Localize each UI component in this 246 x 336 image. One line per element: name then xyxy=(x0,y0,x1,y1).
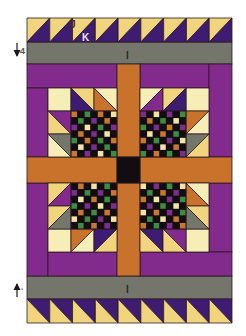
tl-checkerboard-cell xyxy=(85,125,91,131)
tl-checkerboard-cell xyxy=(111,125,117,131)
tl-checkerboard-cell xyxy=(104,144,110,150)
purple-bottom-band-right xyxy=(140,252,232,276)
bl-checkerboard-cell xyxy=(85,216,91,222)
tr-checkerboard-cell xyxy=(167,125,173,131)
tl-checkerboard-cell xyxy=(72,125,78,131)
br-checkerboard-cell xyxy=(180,197,186,203)
bl-checkerboard-cell xyxy=(111,216,117,222)
tl-checkerboard-cell xyxy=(72,138,78,144)
tl-checkerboard-cell xyxy=(104,131,110,137)
tr-checkerboard-cell xyxy=(180,125,186,131)
br-checkerboard-cell xyxy=(160,203,166,209)
br-checkerboard-cell xyxy=(154,197,160,203)
center-square-black xyxy=(117,157,140,183)
tr-checkerboard-cell xyxy=(160,118,166,124)
orange-sash-horizontal-right xyxy=(140,157,232,183)
bl-checkerboard-cell xyxy=(85,203,91,209)
tl-checkerboard-cell xyxy=(78,118,84,124)
br-checkerboard-cell xyxy=(154,210,160,216)
purple-right-column-upper xyxy=(209,64,232,157)
tr-checkerboard-cell xyxy=(154,112,160,118)
br-checkerboard-cell xyxy=(167,223,173,229)
label-i-top: I xyxy=(126,50,129,61)
tl-checkerboard-cell xyxy=(104,118,110,124)
br-checkerboard-cell xyxy=(160,216,166,222)
tl-checkerboard-cell xyxy=(85,112,91,118)
tl-checkerboard-cell xyxy=(111,138,117,144)
purple-right-column-lower xyxy=(209,183,232,252)
tl-checkerboard-cell xyxy=(111,151,117,157)
br-checkerboard-cell xyxy=(180,210,186,216)
tr-checkerboard-cell xyxy=(180,138,186,144)
tr-checkerboard-cell xyxy=(180,112,186,118)
tl-checkerboard-cell xyxy=(72,112,78,118)
tr-checkerboard-cell xyxy=(167,151,173,157)
tl-checkerboard-cell xyxy=(98,112,104,118)
label-four: 4 xyxy=(20,46,25,56)
tr-checkerboard-cell xyxy=(173,118,179,124)
br-checkerboard-cell xyxy=(141,197,147,203)
tl-checkerboard-cell xyxy=(85,151,91,157)
bl-checkerboard-cell xyxy=(72,190,78,196)
tr-checkerboard-cell xyxy=(180,151,186,157)
bl-checkerboard-cell xyxy=(78,184,84,190)
label-j: J xyxy=(70,19,76,30)
br-checkerboard-cell xyxy=(180,184,186,190)
br-checkerboard-cell xyxy=(147,190,153,196)
bl-checkerboard-cell xyxy=(78,197,84,203)
bl-checkerboard-cell xyxy=(104,210,110,216)
br-checkerboard-cell xyxy=(173,203,179,209)
tr-checkerboard-cell xyxy=(154,138,160,144)
tr-checkerboard-cell xyxy=(167,112,173,118)
quilt-diagram: J K I I 4 ‘ xyxy=(0,0,246,336)
tl-checkerboard-cell xyxy=(91,131,97,137)
tl-checkerboard-cell xyxy=(72,151,78,157)
br-checkerboard-cell xyxy=(141,223,147,229)
tr-checkerboard-cell xyxy=(154,151,160,157)
tr-block-square xyxy=(186,88,209,111)
tr-checkerboard-cell xyxy=(141,112,147,118)
tl-checkerboard-cell xyxy=(98,125,104,131)
bl-checkerboard-cell xyxy=(104,184,110,190)
bl-checkerboard-cell xyxy=(72,216,78,222)
tr-checkerboard-cell xyxy=(147,131,153,137)
br-checkerboard-cell xyxy=(154,184,160,190)
orange-sash-vertical-lower xyxy=(117,183,140,276)
tr-checkerboard-cell xyxy=(147,144,153,150)
tl-checkerboard-cell xyxy=(91,118,97,124)
tl-checkerboard-cell xyxy=(98,151,104,157)
br-block-square xyxy=(186,229,209,252)
tr-checkerboard-cell xyxy=(141,138,147,144)
tr-checkerboard-cell xyxy=(160,131,166,137)
br-checkerboard-cell xyxy=(160,190,166,196)
tl-checkerboard-cell xyxy=(78,144,84,150)
label-k: K xyxy=(82,32,90,43)
br-checkerboard-cell xyxy=(167,210,173,216)
br-checkerboard-cell xyxy=(154,223,160,229)
tr-checkerboard-cell xyxy=(141,125,147,131)
br-checkerboard-cell xyxy=(147,203,153,209)
label-bottom-mark: ‘ xyxy=(21,286,23,295)
orange-sash-horizontal-left xyxy=(27,157,117,183)
br-checkerboard-cell xyxy=(173,216,179,222)
label-i-bottom: I xyxy=(126,284,129,295)
tl-checkerboard-cell xyxy=(85,138,91,144)
bl-checkerboard-cell xyxy=(111,203,117,209)
tl-checkerboard-cell xyxy=(91,144,97,150)
br-checkerboard-cell xyxy=(141,210,147,216)
purple-left-column-upper xyxy=(27,88,48,157)
bl-checkerboard-cell xyxy=(104,223,110,229)
tr-checkerboard-cell xyxy=(141,151,147,157)
purple-left-column-lower xyxy=(27,183,48,276)
tr-checkerboard-cell xyxy=(160,144,166,150)
bl-checkerboard-cell xyxy=(98,216,104,222)
br-checkerboard-cell xyxy=(173,190,179,196)
bl-block-square xyxy=(48,229,71,252)
bl-checkerboard-cell xyxy=(104,197,110,203)
bl-checkerboard-cell xyxy=(98,190,104,196)
orange-sash-vertical-upper xyxy=(117,64,140,157)
quilt-pieces xyxy=(27,18,232,323)
bl-checkerboard-cell xyxy=(85,190,91,196)
bl-checkerboard-cell xyxy=(91,210,97,216)
gray-band-top xyxy=(27,42,232,64)
